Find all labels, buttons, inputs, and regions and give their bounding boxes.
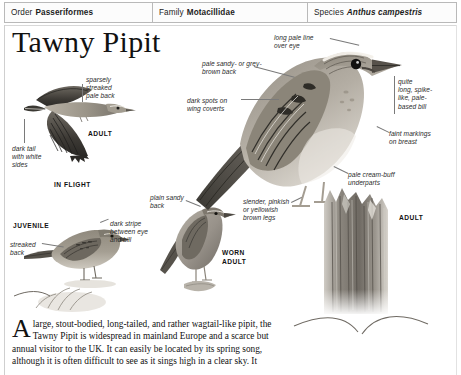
order-label: Order [11,8,32,17]
taxonomy-cell-species: Species Anthus campestris [308,3,456,22]
article-paragraph: Alarge, stout-bodied, long-tailed, and r… [12,318,280,368]
annotation-pale-cream-buff-underparts: pale cream-buff underparts [348,171,395,187]
paragraph-text: large, stout-bodied, long-tailed, and ra… [12,319,271,366]
illustration-ground-vegetation [14,282,134,316]
page-right-rule [456,25,457,375]
annotation-streaked-back: streaked back [10,241,36,257]
annotation-quite-long-bill: quite long, spike- like, pale- based bil… [398,78,432,111]
field-guide-page: Order Passeriformes Family Motacillidae … [0,0,461,375]
taxonomy-cell-order: Order Passeriformes [5,3,153,22]
page-title: Tawny Pipit [12,27,161,57]
caption-in-flight: IN FLIGHT [54,181,91,190]
species-value: Anthus campestris [347,8,422,17]
species-label: Species [314,8,344,17]
annotation-plain-sandy-back: plain sandy back [150,194,184,210]
leader-sparsely-streaked [82,84,83,102]
page-left-rule [4,25,5,375]
family-label: Family [159,8,184,17]
annotation-long-pale-line-over-eye: long pale line over eye [274,34,314,50]
annotation-dark-stripe-eye-bill: dark stripe between eye and bill [110,220,148,245]
illustration-fence-post [300,186,430,346]
leader-dark-tail [24,119,25,143]
caption-adult-right: ADULT [399,214,423,223]
taxonomy-bar: Order Passeriformes Family Motacillidae … [4,2,457,23]
annotation-dark-tail-white-sides: dark tail with white sides [12,145,41,170]
leader-bill [394,76,395,114]
annotation-faint-markings-breast: faint markings on breast [389,130,431,146]
annotation-dark-spots-wing-coverts: dark spots on wing coverts [187,97,227,113]
order-value: Passeriformes [35,8,93,17]
leader-dark-spots [241,99,279,100]
family-value: Motacillidae [187,8,235,17]
annotation-pale-sandy-grey-brown-back: pale sandy- or grey- brown back [202,60,262,76]
drop-cap: A [12,318,33,339]
annotation-sparsely-streaked-pale-back: sparsely streaked pale back [86,76,115,101]
taxonomy-cell-family: Family Motacillidae [153,3,308,22]
caption-adult-flight: ADULT [88,130,112,139]
caption-juvenile: JUVENILE [13,222,49,231]
caption-worn-adult: WORN ADULT [222,249,246,266]
